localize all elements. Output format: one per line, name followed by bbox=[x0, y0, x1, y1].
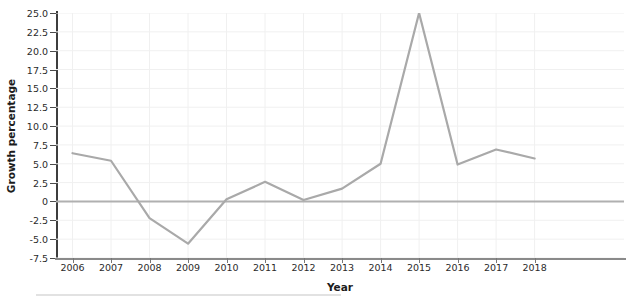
y-axis-title: Growth percentage bbox=[5, 78, 17, 192]
x-tick-mark bbox=[73, 258, 74, 263]
x-tick-mark bbox=[304, 258, 305, 263]
y-tick-label: 0 bbox=[8, 196, 48, 207]
y-tick-label: 10.0 bbox=[8, 121, 48, 132]
x-tick-mark bbox=[496, 258, 497, 263]
x-tick-mark bbox=[458, 258, 459, 263]
y-tick-label: -2.5 bbox=[8, 215, 48, 226]
x-tick-mark bbox=[535, 258, 536, 263]
vertical-gridlines bbox=[73, 13, 535, 258]
x-tick-mark bbox=[150, 258, 151, 263]
x-tick-mark bbox=[188, 258, 189, 263]
footer-divider bbox=[36, 294, 341, 296]
x-tick-mark bbox=[111, 258, 112, 263]
x-tick-label: 2018 bbox=[512, 262, 558, 273]
y-tick-label: 2.5 bbox=[8, 177, 48, 188]
x-tick-mark bbox=[227, 258, 228, 263]
y-tick-label: -7.5 bbox=[8, 253, 48, 264]
y-tick-label: 7.5 bbox=[8, 139, 48, 150]
y-tick-label: 12.5 bbox=[8, 102, 48, 113]
y-tick-label: 5.0 bbox=[8, 158, 48, 169]
y-tick-label: 22.5 bbox=[8, 26, 48, 37]
y-tick-label: 17.5 bbox=[8, 64, 48, 75]
x-axis-title: Year bbox=[56, 281, 624, 293]
x-tick-mark bbox=[342, 258, 343, 263]
x-tick-mark bbox=[419, 258, 420, 263]
plot-svg bbox=[56, 13, 624, 258]
x-tick-mark bbox=[265, 258, 266, 263]
horizontal-gridlines bbox=[56, 13, 624, 258]
growth-percentage-line-chart: Growth percentage 25.022.520.017.515.012… bbox=[0, 0, 628, 301]
x-tick-mark bbox=[381, 258, 382, 263]
y-tick-label: -5.0 bbox=[8, 234, 48, 245]
y-tick-label: 25.0 bbox=[8, 8, 48, 19]
plot-area bbox=[56, 13, 624, 258]
y-tick-label: 20.0 bbox=[8, 45, 48, 56]
y-tick-label: 15.0 bbox=[8, 83, 48, 94]
x-axis-spine bbox=[55, 258, 626, 260]
